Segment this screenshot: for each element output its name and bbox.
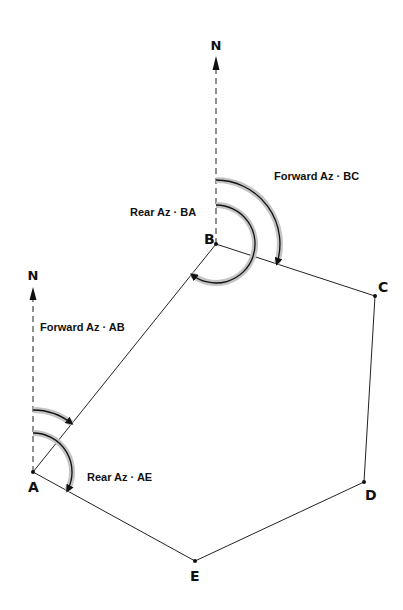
- point-d: [362, 480, 366, 484]
- label-point-c: C: [378, 279, 388, 295]
- label-rear-az-ba: Rear Az · BA: [130, 206, 196, 218]
- point-a: [31, 470, 35, 474]
- line-bc: [216, 244, 375, 296]
- svg-text:N: N: [211, 38, 222, 53]
- line-de: [195, 482, 364, 561]
- north-marker-a: N: [28, 268, 39, 472]
- label-rear-az-ae: Rear Az · AE: [87, 471, 152, 483]
- arc-rear-az-ba: [192, 205, 255, 283]
- point-e: [193, 559, 197, 563]
- station-points: [31, 242, 377, 563]
- svg-text:N: N: [28, 268, 39, 283]
- arc-rear-az-ae: [33, 433, 72, 491]
- arc-forward-az-ab: [33, 410, 72, 424]
- label-point-b: B: [204, 231, 215, 247]
- line-ea: [33, 472, 195, 561]
- point-c: [373, 294, 377, 298]
- north-arrow-icon: [30, 287, 37, 300]
- label-forward-az-ab: Forward Az · AB: [40, 321, 125, 333]
- line-cd: [364, 296, 375, 482]
- label-point-e: E: [190, 568, 200, 584]
- traverse-polygon: [33, 244, 375, 561]
- line-ab: [33, 244, 216, 472]
- north-marker-b: N: [211, 38, 222, 244]
- north-arrow-icon: [213, 56, 220, 70]
- label-point-d: D: [365, 487, 377, 503]
- label-forward-az-bc: Forward Az · BC: [274, 170, 359, 182]
- label-point-a: A: [28, 479, 39, 495]
- traverse-diagram: N N A B C D E Forward Az · BC Rear Az · …: [0, 0, 403, 610]
